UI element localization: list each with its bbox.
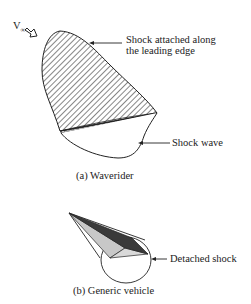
- velocity-symbol: V: [13, 20, 21, 31]
- caption-panel-b: (b) Generic vehicle: [73, 285, 154, 296]
- freestream-arrow-icon: [25, 28, 37, 37]
- arrow-head-icon: [89, 41, 94, 45]
- shock-attached-label-line1: Shock attached along: [126, 34, 216, 45]
- shock-attached-label-line2: the leading edge: [126, 45, 195, 56]
- generic-vehicle: [69, 213, 151, 283]
- arrow-head-icon: [151, 257, 156, 261]
- freestream-label: V∞: [13, 20, 26, 36]
- caption-panel-a: (a) Waverider: [76, 170, 134, 181]
- shock-wave-label: Shock wave: [172, 137, 223, 148]
- detached-shock-label: Detached shock: [170, 253, 237, 264]
- infinity-subscript: ∞: [21, 26, 26, 34]
